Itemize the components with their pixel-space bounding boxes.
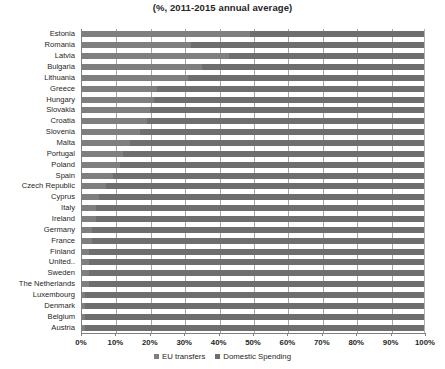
plot-area [81,29,425,333]
x-axis-tick-label: 50% [245,338,261,347]
category-axis-labels: EstoniaRomaniaLatviaBulgariaLithuaniaGre… [0,29,78,333]
stacked-bar-chart: (%, 2011-2015 annual average) EstoniaRom… [0,0,445,369]
bar-row [82,151,424,157]
category-label: Latvia [55,52,75,60]
bar-row [82,205,424,211]
bar-segment-domestic-spending [99,194,424,200]
x-axis-tick-labels: 0%10%20%30%40%50%60%70%80%90%100% [0,338,445,350]
bar-segment-domestic-spending [89,259,424,265]
bar-segment-domestic-spending [154,97,424,103]
bar-segment-domestic-spending [85,314,424,320]
bar-segment-eu-transfers [82,42,191,48]
x-axis-tick [425,333,426,336]
bar-segment-eu-transfers [82,205,96,211]
bar-segment-domestic-spending [96,216,424,222]
bar-segment-eu-transfers [82,64,202,70]
bar-segment-domestic-spending [229,53,424,59]
x-axis-tick [253,333,254,336]
x-axis-tick [219,333,220,336]
bar-row [82,129,424,135]
x-axis-tick [391,333,392,336]
x-axis-ticks [81,333,425,337]
bar-segment-domestic-spending [89,249,424,255]
legend-item[interactable]: EU transfers [154,352,205,361]
x-axis-tick [184,333,185,336]
bar-segment-domestic-spending [85,325,424,331]
bar-segment-domestic-spending [140,129,424,135]
bar-segment-eu-transfers [82,107,150,113]
bar-row [82,281,424,287]
category-label: Finland [50,248,75,256]
bar-row [82,53,424,59]
bar-segment-eu-transfers [82,249,89,255]
category-label: Bulgaria [47,63,75,71]
x-axis-tick-label: 100% [415,338,435,347]
legend-swatch-icon [154,354,159,359]
legend-label: EU transfers [162,352,205,361]
bar-segment-eu-transfers [82,194,99,200]
x-axis-tick-label: 10% [108,338,124,347]
bar-segment-eu-transfers [82,183,106,189]
chart-title: (%, 2011-2015 annual average) [0,2,445,13]
x-axis-tick [356,333,357,336]
category-label: Croatia [51,117,75,125]
category-label: France [51,237,75,245]
chart-legend: EU transfersDomestic Spending [0,352,445,361]
bar-row [82,75,424,81]
bar-segment-domestic-spending [92,238,424,244]
category-label: United.. [49,258,75,266]
category-label: Malta [56,139,75,147]
x-axis-tick [150,333,151,336]
bar-row [82,325,424,331]
bar-segment-domestic-spending [147,118,424,124]
bar-segment-eu-transfers [82,281,89,287]
category-label: Cyprus [51,193,75,201]
category-label: Poland [51,161,75,169]
x-axis-tick-label: 90% [383,338,399,347]
x-axis-tick-label: 80% [348,338,364,347]
bar-row [82,162,424,168]
bar-row [82,118,424,124]
bar-row [82,270,424,276]
bar-row [82,107,424,113]
bar-series-container [82,29,424,333]
bar-row [82,259,424,265]
bar-segment-eu-transfers [82,129,140,135]
bar-segment-domestic-spending [120,162,424,168]
category-label: Belgium [48,313,75,321]
bar-segment-domestic-spending [89,281,424,287]
bar-row [82,292,424,298]
category-label: Austria [51,324,75,332]
bar-segment-domestic-spending [89,270,424,276]
bar-segment-domestic-spending [106,183,424,189]
x-axis-tick [287,333,288,336]
bar-segment-eu-transfers [82,238,92,244]
x-axis-tick [322,333,323,336]
bar-segment-domestic-spending [250,31,424,37]
x-axis-tick [81,333,82,336]
bar-row [82,183,424,189]
category-label: The Netherlands [19,280,75,288]
category-label: Estonia [50,30,75,38]
bar-segment-domestic-spending [113,173,424,179]
bar-segment-domestic-spending [96,205,424,211]
category-label: Sweden [48,269,75,277]
bar-row [82,194,424,200]
bar-segment-eu-transfers [82,118,147,124]
bar-row [82,140,424,146]
bar-row [82,86,424,92]
category-label: Romania [45,41,75,49]
bar-row [82,238,424,244]
category-label: Hungary [46,96,75,104]
legend-item[interactable]: Domestic Spending [215,352,291,361]
category-label: Italy [61,204,75,212]
category-label: Lithuania [44,74,75,82]
x-axis-tick-label: 60% [280,338,296,347]
bar-row [82,314,424,320]
bar-row [82,31,424,37]
bar-row [82,173,424,179]
category-label: Slovakia [46,106,75,114]
x-axis-tick-label: 70% [314,338,330,347]
bar-segment-domestic-spending [150,107,424,113]
x-axis-tick-label: 40% [211,338,227,347]
